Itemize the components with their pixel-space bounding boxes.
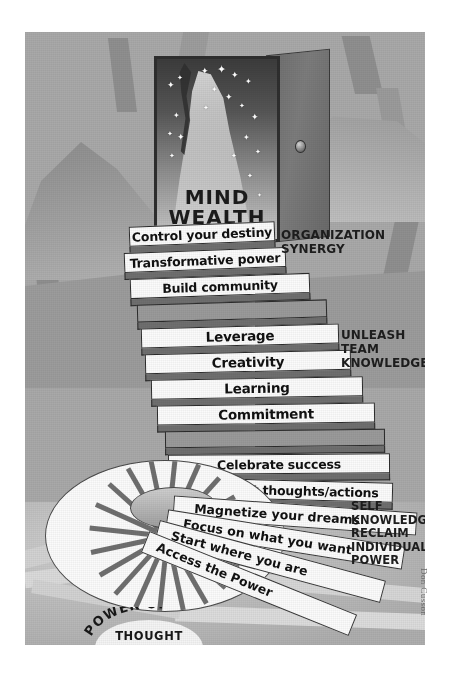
- step-label: Commitment: [218, 405, 314, 422]
- callout-line: RECLAIM: [351, 527, 425, 541]
- star-icon: ✦: [245, 77, 252, 86]
- star-icon: ✦: [173, 111, 180, 120]
- title-line-1: MIND: [157, 187, 277, 207]
- star-icon: ✦: [239, 101, 245, 110]
- doorway-group: ✦ ✦ ✦ ✦ ✦ ✦ ✦ ✦ ✦ ✦ ✦ ✦ ✦ ✦ ✦ ✦ ✦ ✦ ✦ ✦: [149, 52, 345, 244]
- power-of-badge: POWER OF THOUGHT CHOICE ACTION: [83, 607, 215, 645]
- star-icon: ✦: [255, 147, 261, 156]
- star-icon: ✦: [167, 129, 173, 138]
- illustration-page: ✦ ✦ ✦ ✦ ✦ ✦ ✦ ✦ ✦ ✦ ✦ ✦ ✦ ✦ ✦ ✦ ✦ ✦ ✦ ✦: [0, 0, 457, 674]
- callout-organization-synergy: ORGANIZATION SYNERGY: [281, 228, 385, 256]
- step-leverage: Leverage: [141, 324, 339, 349]
- callout-line: INDIVIDUAL: [351, 541, 425, 555]
- star-icon: ✦: [243, 133, 250, 142]
- callout-line: TEAM: [341, 342, 425, 356]
- star-icon: ✦: [225, 93, 233, 102]
- step-label: Learning: [224, 379, 290, 396]
- callout-line: SELF: [351, 500, 425, 514]
- star-icon: ✦: [177, 133, 185, 142]
- star-icon: ✦: [231, 151, 237, 160]
- callout-line: SYNERGY: [281, 242, 385, 256]
- background-ray: [342, 36, 383, 94]
- callout-self-knowledge: SELF KNOWLEDGE: RECLAIM INDIVIDUAL POWER: [351, 500, 425, 568]
- callout-unleash-team-knowledge: UNLEASH TEAM KNOWLEDGE: [341, 328, 425, 370]
- step-commitment: Commitment: [157, 402, 375, 425]
- doorway-opening: ✦ ✦ ✦ ✦ ✦ ✦ ✦ ✦ ✦ ✦ ✦ ✦ ✦ ✦ ✦ ✦ ✦ ✦ ✦ ✦: [154, 56, 280, 242]
- callout-line: KNOWLEDGE:: [351, 514, 425, 528]
- star-icon: ✦: [177, 73, 183, 82]
- star-icon: ✦: [211, 85, 218, 94]
- step-creativity: Creativity: [145, 350, 351, 374]
- star-icon: ✦: [247, 171, 253, 180]
- callout-line: KNOWLEDGE: [341, 356, 425, 370]
- step-label: Build community: [162, 276, 278, 295]
- step-label: Creativity: [212, 353, 285, 371]
- illustration-canvas: ✦ ✦ ✦ ✦ ✦ ✦ ✦ ✦ ✦ ✦ ✦ ✦ ✦ ✦ ✦ ✦ ✦ ✦ ✦ ✦: [25, 32, 425, 645]
- step-learning: Learning: [151, 376, 363, 400]
- door-knob-icon: [295, 140, 306, 153]
- star-icon: ✦: [169, 151, 175, 160]
- star-icon: ✦: [167, 81, 175, 90]
- callout-line: POWER: [351, 554, 425, 568]
- background-ray: [108, 38, 137, 112]
- badge-line-choice: CHOICE: [83, 644, 215, 646]
- callout-line: ORGANIZATION: [281, 228, 385, 242]
- star-icon: ✦: [231, 71, 239, 80]
- artist-credit: Don Cusson: [419, 568, 429, 616]
- callout-line: UNLEASH: [341, 328, 425, 342]
- badge-lines: THOUGHT CHOICE ACTION: [83, 629, 215, 645]
- star-icon: ✦: [201, 67, 209, 76]
- star-icon: ✦: [251, 113, 259, 122]
- star-icon: ✦: [217, 65, 226, 74]
- step-label: Leverage: [205, 327, 274, 345]
- step-blank-upper: [137, 299, 327, 322]
- step-control-your-destiny: Control your destiny: [129, 221, 276, 247]
- badge-line-thought: THOUGHT: [83, 629, 215, 644]
- star-icon: ✦: [203, 103, 209, 112]
